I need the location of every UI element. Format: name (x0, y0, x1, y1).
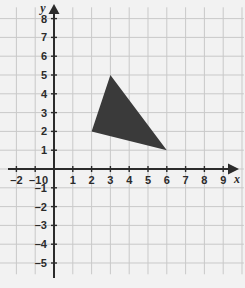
y-tick-label: –3 (35, 219, 47, 231)
y-tick-label: 7 (41, 31, 47, 43)
coordinate-plane-figure: –2–1012345678987654321–1–2–3–4–5 xy (0, 0, 245, 288)
y-tick-label: 2 (41, 125, 47, 137)
x-tick-label: 5 (145, 174, 151, 186)
coordinate-plane-svg: –2–1012345678987654321–1–2–3–4–5 xy (0, 0, 245, 288)
x-tick-label: 2 (89, 174, 95, 186)
x-tick-label: 6 (164, 174, 170, 186)
y-tick-label: –2 (35, 201, 47, 213)
x-tick-label: –2 (10, 174, 22, 186)
x-tick-label: 8 (201, 174, 207, 186)
x-tick-label: 3 (107, 174, 113, 186)
y-tick-label: –4 (35, 238, 48, 250)
x-axis-name-label: x (233, 172, 240, 186)
x-tick-label: 1 (70, 174, 76, 186)
y-tick-label: 4 (41, 88, 48, 100)
x-tick-label: 7 (183, 174, 189, 186)
x-tick-label: 9 (220, 174, 226, 186)
y-axis-name-label: y (38, 1, 46, 15)
y-tick-label: –5 (35, 257, 47, 269)
x-tick-label: 4 (126, 174, 133, 186)
y-tick-label: 6 (41, 50, 47, 62)
y-tick-label: 1 (41, 144, 47, 156)
y-tick-label: –1 (35, 182, 47, 194)
y-tick-label: 3 (41, 107, 47, 119)
y-tick-label: 5 (41, 69, 47, 81)
